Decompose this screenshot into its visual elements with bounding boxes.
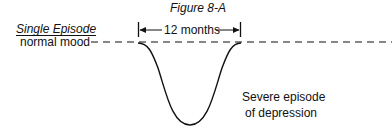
annotation-line2: of depression [245, 107, 317, 119]
baseline-label: normal mood [20, 36, 90, 48]
arrow-right-icon [233, 27, 240, 33]
annotation-line1: Severe episode [242, 91, 325, 103]
episode-diagram [0, 0, 392, 134]
depression-curve [138, 43, 241, 125]
duration-label: 12 months [164, 24, 220, 36]
diagram-heading: Single Episode [16, 23, 96, 35]
arrow-left-icon [140, 27, 147, 33]
figure-title: Figure 8-A [170, 2, 226, 14]
